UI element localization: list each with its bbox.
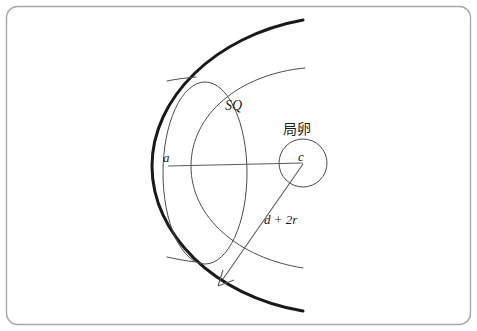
- label-distance-d2r: d + 2r: [264, 212, 298, 227]
- geometric-diagram-canvas: a c SQ d + 2r 局卵: [0, 0, 477, 331]
- figure-root: a c SQ d + 2r 局卵: [0, 0, 477, 331]
- label-center-c: c: [298, 149, 304, 164]
- label-intersection-sq: SQ: [225, 98, 242, 113]
- label-cjk-annotation: 局卵: [283, 121, 311, 137]
- diagram-frame-border: [7, 7, 471, 325]
- label-radius-a: a: [163, 150, 170, 165]
